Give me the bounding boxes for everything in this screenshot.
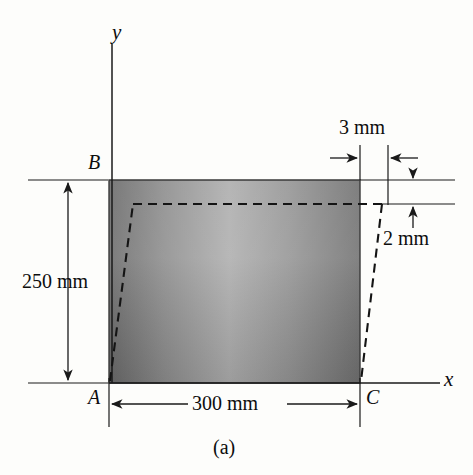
point-label-B: B (88, 152, 100, 172)
point-label-A: A (88, 387, 100, 407)
figure-container: y x B A C 250 mm 300 mm 3 mm 2 mm (a) (0, 0, 473, 475)
dimension-label-2mm: 2 mm (383, 228, 429, 248)
y-axis-label: y (112, 22, 121, 43)
dimension-label-250mm: 250 mm (22, 271, 88, 291)
dimension-label-3mm: 3 mm (339, 117, 385, 137)
point-label-C: C (366, 387, 379, 407)
dimension-2mm (360, 172, 455, 228)
figure-caption: (a) (213, 437, 235, 457)
x-axis-label: x (444, 369, 453, 390)
plate-body (109, 180, 360, 383)
dimension-label-300mm: 300 mm (192, 393, 258, 413)
deformed-right-edge (361, 204, 382, 381)
